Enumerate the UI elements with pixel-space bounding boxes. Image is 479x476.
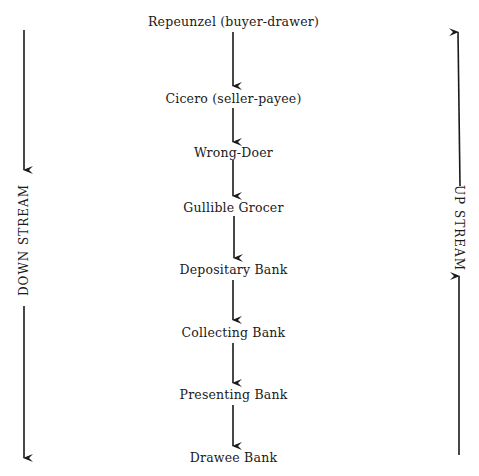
node-label: Depositary Bank bbox=[179, 262, 287, 277]
node-depositary-bank: Depositary Bank bbox=[0, 262, 479, 277]
node-label: Presenting Bank bbox=[180, 387, 288, 402]
node-label: Repeunzel (buyer-drawer) bbox=[148, 14, 319, 29]
arrows-layer bbox=[0, 0, 479, 476]
upstream-label: UP STREAM bbox=[452, 185, 466, 271]
node-drawee-bank: Drawee Bank bbox=[0, 450, 479, 465]
node-label: Cicero (seller-payee) bbox=[165, 91, 301, 106]
node-collecting-bank: Collecting Bank bbox=[0, 325, 479, 340]
node-label: Gullible Grocer bbox=[183, 200, 283, 215]
node-label: Collecting Bank bbox=[182, 325, 286, 340]
node-cicero: Cicero (seller-payee) bbox=[0, 91, 479, 106]
node-gullible-grocer: Gullible Grocer bbox=[0, 200, 479, 215]
node-repeunzel: Repeunzel (buyer-drawer) bbox=[0, 14, 479, 29]
node-label: Wrong-Doer bbox=[194, 145, 273, 160]
node-label: Drawee Bank bbox=[190, 450, 277, 465]
downstream-label: DOWN STREAM bbox=[17, 184, 31, 296]
upstream-arrow-top bbox=[458, 32, 460, 186]
node-wrong-doer: Wrong-Doer bbox=[0, 145, 479, 160]
node-presenting-bank: Presenting Bank bbox=[0, 387, 479, 402]
